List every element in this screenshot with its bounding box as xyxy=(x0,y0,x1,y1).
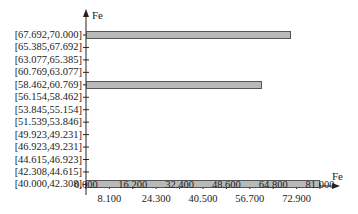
y-tick-label: [44.615,46.923] xyxy=(0,154,82,166)
x-tick-label: 32.400 xyxy=(165,179,194,191)
y-tick-label: [63.077,65.385] xyxy=(0,54,82,66)
x-tick-label: 24.300 xyxy=(142,193,171,205)
x-tick-label: 72.900 xyxy=(282,193,311,205)
x-tick-label: 40.500 xyxy=(189,193,218,205)
bar xyxy=(86,31,291,39)
x-tick-label: 0.000 xyxy=(74,179,98,191)
y-tick-label: [60.769,63.077] xyxy=(0,66,82,78)
y-tick-label: [49.923,49.231] xyxy=(0,129,82,141)
bar xyxy=(86,81,262,89)
y-tick-label: [40.000,42.308] xyxy=(0,178,82,190)
x-tick-label: 56.700 xyxy=(235,193,264,205)
y-tick-label: [46.923,49.231] xyxy=(0,141,82,153)
y-tick-label: [58.462,60.769] xyxy=(0,79,82,91)
x-tick-label: 8.100 xyxy=(98,193,122,205)
y-tick-label: [53.845,55.154] xyxy=(0,104,82,116)
y-axis-title: Fe xyxy=(92,9,103,21)
x-tick-label: 48.600 xyxy=(212,179,241,191)
x-tick-label: 16.200 xyxy=(118,179,147,191)
y-tick-label: [51.539,53.846] xyxy=(0,116,82,128)
y-tick-label: [67.692,70.000] xyxy=(0,29,82,41)
y-tick-label: [65.385,67.692] xyxy=(0,41,82,53)
y-tick-label: [42.308,44.615] xyxy=(0,166,82,178)
y-tick-label: [56.154,58.462] xyxy=(0,91,82,103)
x-tick-label: 81.000 xyxy=(306,179,335,191)
x-tick-label: 64.800 xyxy=(259,179,288,191)
